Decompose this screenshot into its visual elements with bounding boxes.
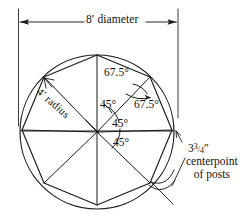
angle-label-45-upper: 45° xyxy=(100,98,116,110)
angle-label-675-lower: 67.5° xyxy=(134,98,159,110)
post-centerpoint-callout: 33/4″ centerpoint of posts xyxy=(186,142,238,181)
offset-unit: ″ xyxy=(204,142,209,154)
dimension-arrow-left xyxy=(20,19,84,25)
octagon-layout-diagram: 8′ diameter 4′ radius 67.5° 67.5° 45° 45… xyxy=(0,0,246,224)
angle-label-45-lower: 45° xyxy=(113,136,129,148)
dimension-arrow-right xyxy=(146,19,177,25)
figure-svg xyxy=(0,0,246,224)
angle-label-675-upper: 67.5° xyxy=(104,66,129,78)
post-callout-line2: of posts xyxy=(186,168,238,181)
radial-spokes xyxy=(22,55,172,205)
post-offset-dimension: 33/4″ xyxy=(186,142,238,155)
diameter-label: 8′ diameter xyxy=(86,13,138,25)
angle-label-45-middle: 45° xyxy=(112,117,128,129)
post-callout-line1: centerpoint xyxy=(186,155,238,168)
offset-fraction: 3/4 xyxy=(194,143,204,155)
offset-numerator: 3 xyxy=(194,142,198,151)
